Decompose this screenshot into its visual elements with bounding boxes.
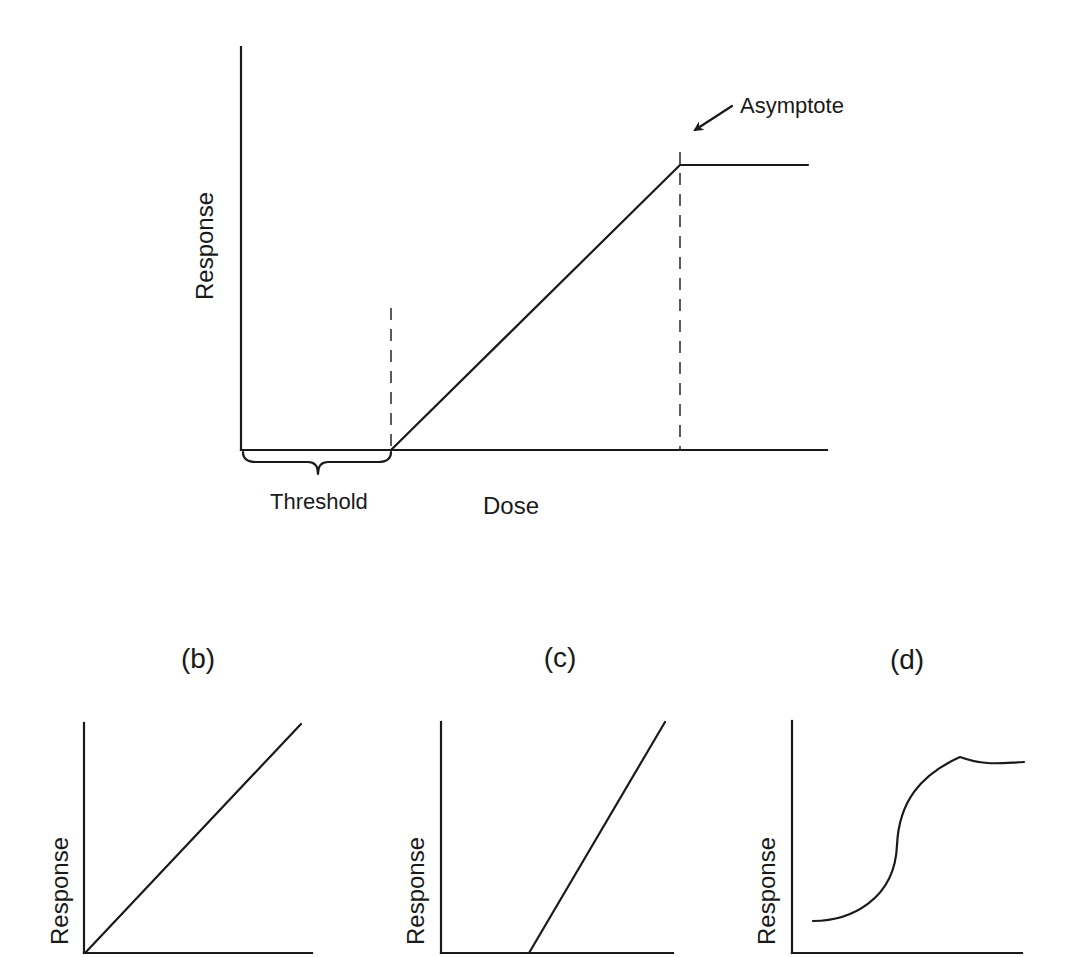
subplot-d-y-label: Response (753, 837, 780, 945)
diagram-canvas: Asymptote Threshold Dose Response (b) Re… (0, 0, 1066, 957)
asymptote-label: Asymptote (740, 93, 844, 118)
subplot-c-title: (c) (544, 642, 577, 673)
asymptote-arrow-icon (695, 106, 732, 130)
x-axis-label-dose: Dose (483, 492, 539, 519)
subplot-c-y-label: Response (402, 837, 429, 945)
threshold-label: Threshold (270, 489, 368, 514)
subplot-b-curve (86, 724, 301, 952)
main-response-curve (241, 165, 808, 450)
subplot-b: (b) Response (46, 643, 312, 953)
subplot-d-title: (d) (890, 644, 924, 675)
subplot-c-curve (441, 722, 665, 953)
subplot-d-curve (813, 757, 1024, 921)
subplot-b-y-label: Response (46, 837, 73, 945)
subplot-b-title: (b) (181, 643, 215, 674)
subplot-c: (c) Response (402, 642, 673, 953)
y-axis-label-response: Response (191, 192, 218, 300)
threshold-brace (243, 452, 391, 474)
main-plot: Asymptote Threshold Dose Response (191, 47, 844, 519)
subplot-d: (d) Response (753, 644, 1024, 953)
